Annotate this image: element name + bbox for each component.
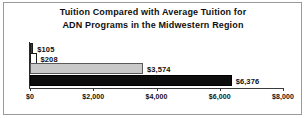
x-axis-tick-label: $8,000 <box>272 93 294 100</box>
bar-value-label: $105 <box>37 44 54 53</box>
x-axis-tick <box>30 88 31 91</box>
x-axis-tick <box>93 88 94 91</box>
x-axis-tick-label: $6,000 <box>209 93 231 100</box>
chart-title-line-1: Tuition Compared with Average Tuition fo… <box>60 7 247 17</box>
bar-series-4 <box>30 75 232 86</box>
chart-title-line-2: ADN Programs in the Midwestern Region <box>22 19 284 32</box>
bar-value-label: $3,574 <box>147 64 171 73</box>
x-axis-tick <box>283 88 284 91</box>
bar-value-label: $208 <box>41 54 58 63</box>
bar-series-3 <box>30 63 143 74</box>
plot-area: $105 $208 $3,574 $6,376 $0$2,000$4,000$6… <box>30 42 283 88</box>
chart-title: Tuition Compared with Average Tuition fo… <box>22 6 284 32</box>
x-axis-tick <box>220 88 221 91</box>
x-axis-tick-label: $4,000 <box>145 93 167 100</box>
bar-value-label: $6,376 <box>236 76 260 85</box>
x-axis-tick-label: $0 <box>26 93 34 100</box>
x-axis-tick-label: $2,000 <box>82 93 104 100</box>
chart-container: Tuition Compared with Average Tuition fo… <box>0 0 306 118</box>
x-axis-tick <box>157 88 158 91</box>
